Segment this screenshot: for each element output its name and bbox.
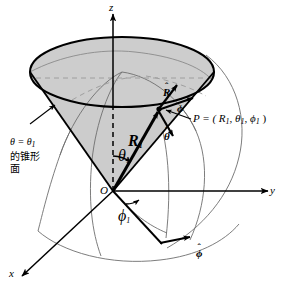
position-vector-label: R1 [128, 133, 143, 150]
hat-accent-icon: ˆ [179, 98, 182, 108]
sphere-arc-equator-front [38, 224, 239, 261]
cone-note-equation-subscript: 1 [32, 140, 36, 149]
cone-note-line-2: 的锥形 [10, 151, 40, 163]
point-P-prefix: P = ( R [193, 112, 226, 124]
cone-note: θ = θ1 的锥形 面 [10, 136, 40, 175]
unit-vector-phi-hat-equator-label: ˆϕ [196, 248, 202, 259]
hat-accent-icon: ˆ [165, 126, 168, 136]
y-axis-label: y [270, 185, 275, 196]
hat-accent-icon: ˆ [198, 243, 201, 253]
x-axis [22, 191, 113, 276]
unit-vector-phi-hat-equator [160, 237, 190, 243]
cone-note-equation: θ = θ [10, 136, 32, 147]
unit-vector-phi-hat-label: ˆϕ [177, 103, 183, 114]
theta1-label: θ1 [118, 148, 130, 165]
position-vector-letter: R [128, 132, 139, 149]
theta1-letter: θ [118, 147, 126, 164]
spherical-coordinates-figure: z y x O R1 θ1 ϕ1 ˆR ˆϕ ˆθ ˆϕ P = ( R1, θ… [0, 0, 281, 289]
cone-note-line-3: 面 [10, 163, 40, 175]
unit-vector-R-hat-label: ˆR [163, 87, 170, 98]
point-P-sep-2: , ϕ [244, 112, 255, 124]
position-vector-subscript: 1 [139, 141, 143, 150]
z-axis-label: z [109, 2, 113, 13]
origin-label: O [100, 185, 108, 196]
point-P-marker [156, 106, 161, 111]
phi1-subscript: 1 [126, 216, 130, 225]
point-P-label: P = ( R1, θ1, ϕ1 ) [193, 113, 266, 126]
point-P-sep-1: , θ [230, 112, 241, 124]
theta1-subscript: 1 [126, 156, 130, 165]
point-P-close: ) [260, 112, 266, 124]
x-axis-label: x [9, 268, 14, 279]
phi1-label: ϕ1 [118, 208, 130, 225]
cone-note-line-1: θ = θ1 [10, 136, 40, 151]
cone-note-leader [30, 105, 55, 124]
unit-vector-theta-hat-label: ˆθ [164, 131, 170, 142]
hat-accent-icon: ˆ [165, 82, 168, 92]
phi1-angle-arc [126, 200, 139, 204]
